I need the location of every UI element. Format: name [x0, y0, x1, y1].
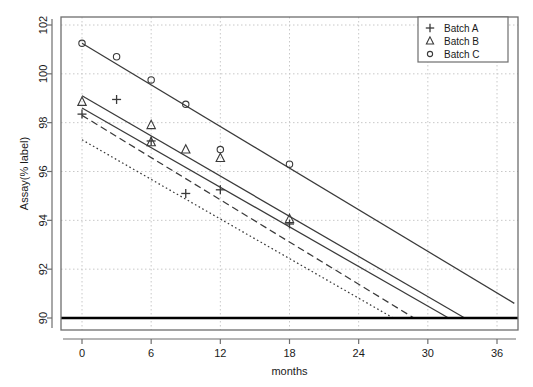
x-axis-tick-label: 0 — [79, 347, 85, 359]
y-axis-tick-label: 96 — [37, 165, 49, 177]
y-axis-tick-label: 92 — [37, 263, 49, 275]
y-axis-tick-label: 90 — [37, 312, 49, 324]
x-axis-tick-label: 24 — [353, 347, 365, 359]
y-axis-title: Assay(% label) — [18, 137, 30, 210]
x-axis-tick-label: 18 — [283, 347, 295, 359]
legend-label-batch-b: Batch B — [444, 36, 479, 47]
x-axis-tick-label: 36 — [491, 347, 503, 359]
y-axis-tick-label: 94 — [37, 214, 49, 226]
x-axis-tick-label: 6 — [148, 347, 154, 359]
y-axis-tick-label: 102 — [37, 16, 49, 34]
x-axis-tick-label: 30 — [422, 347, 434, 359]
x-axis-tick-label: 12 — [214, 347, 226, 359]
assay-stability-chart: 061218243036months9092949698100102Assay(… — [0, 0, 533, 387]
legend-label-batch-a: Batch A — [444, 23, 479, 34]
chart-container: 061218243036months9092949698100102Assay(… — [0, 0, 533, 387]
y-axis-tick-label: 100 — [37, 65, 49, 83]
legend-label-batch-c: Batch C — [444, 49, 480, 60]
x-axis-title: months — [271, 365, 308, 377]
y-axis-tick-label: 98 — [37, 117, 49, 129]
